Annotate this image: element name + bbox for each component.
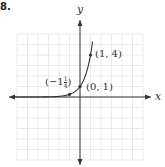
- problem-number: 8.: [0, 1, 11, 12]
- point-label-neg1-quarter: (−114): [45, 76, 71, 89]
- point-label-0-1: (0, 1): [86, 82, 113, 92]
- data-point: [78, 85, 81, 88]
- point-label-1-4: (1, 4): [95, 49, 122, 59]
- point-label-prefix: (−1: [45, 76, 64, 87]
- y-axis-label: y: [77, 4, 83, 15]
- exponential-graph: [0, 0, 165, 167]
- data-point: [68, 93, 71, 96]
- point-label-suffix: ): [67, 76, 71, 87]
- y-axis: [78, 20, 83, 165]
- data-point: [89, 53, 92, 56]
- x-axis-label: x: [155, 91, 161, 102]
